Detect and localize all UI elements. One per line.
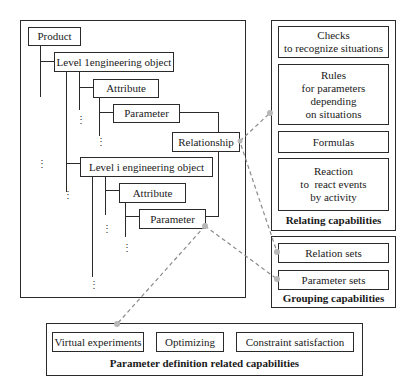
connector-dot: [274, 249, 280, 255]
connector-dot: [267, 110, 273, 116]
connector-dot: [274, 276, 280, 282]
connector-dot: [114, 321, 120, 327]
relationship-to-relating-connector: [240, 113, 270, 141]
connector-dot: [238, 139, 243, 144]
connector-dot: [202, 223, 208, 229]
relationship-to-relation-sets-connector: [241, 145, 277, 252]
parameter-to-definition-connector: [117, 226, 205, 324]
dashed-connectors: [0, 0, 415, 392]
parameter-to-parameter-sets-connector: [205, 226, 277, 279]
